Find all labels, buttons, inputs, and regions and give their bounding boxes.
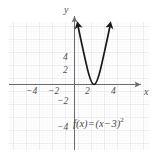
x-tick-label-4: 4 xyxy=(111,87,116,97)
x-tick-label--4: −4 xyxy=(26,87,37,97)
parabola-figure: −4 −2 2 4 4 2 −2 −4 y x f(x)=(x−3)2 xyxy=(0,0,158,156)
x-tick-label-2: 2 xyxy=(85,87,90,97)
equation-equals: = xyxy=(88,118,96,129)
equation-minus: − xyxy=(104,118,112,129)
x-axis-name: x xyxy=(144,87,148,97)
equation-exponent: 2 xyxy=(120,116,124,124)
y-tick-label--2: −2 xyxy=(57,97,68,107)
y-tick-label-4: 4 xyxy=(63,53,68,63)
y-tick-label-2: 2 xyxy=(63,66,68,76)
equation-label: f(x)=(x−3)2 xyxy=(73,117,124,129)
y-axis-name: y xyxy=(64,5,68,15)
equation-variable: x xyxy=(99,118,104,129)
graph-canvas xyxy=(0,0,158,156)
y-tick-label--4: −4 xyxy=(57,123,68,133)
equation-argument: (x) xyxy=(76,118,88,129)
